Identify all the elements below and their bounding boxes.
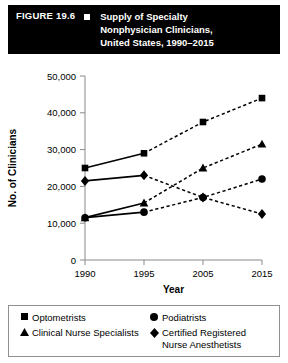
x-axis-tick-label: 2005 <box>192 268 213 279</box>
data-series-layer <box>81 95 267 222</box>
circle-marker-icon <box>149 313 159 321</box>
x-axis-tick-group: 1990199520052015 <box>74 260 272 279</box>
y-axis-tick-label: 40,000 <box>47 107 76 118</box>
legend-label: Certified Registered <box>162 327 246 338</box>
y-axis-title: No. of Clinicians <box>7 128 18 207</box>
square-data-point <box>141 150 148 157</box>
diamond-data-point <box>81 176 89 186</box>
y-axis-tick-group: 010,00020,00030,00040,00050,000 <box>47 71 85 266</box>
figure-number-label: FIGURE 19.6 <box>16 10 75 23</box>
x-axis-tick-label: 1990 <box>74 268 95 279</box>
circle-data-point <box>258 175 266 183</box>
legend-item-clinical-nurse-specialists: Clinical Nurse Specialists <box>19 327 145 339</box>
x-axis-title: Year <box>163 284 184 295</box>
white-square-bullet-icon <box>84 14 90 20</box>
x-axis-tick-label: 1995 <box>133 268 154 279</box>
y-axis-tick-label: 10,000 <box>47 218 76 229</box>
legend-item-podiatrists: Podiatrists <box>149 312 275 324</box>
figure-title-line-3: United States, 1990–2015 <box>100 36 274 49</box>
square-marker-icon <box>19 313 29 320</box>
figure-title-line-1: Supply of Specialty <box>100 10 274 23</box>
legend-label: Clinical Nurse Specialists <box>32 327 145 339</box>
legend-item-certified-registered-nurse-anesthetists: Certified Registered Nurse Anesthetists <box>149 327 275 351</box>
figure-title: Supply of Specialty Nonphysician Clinici… <box>100 10 274 49</box>
series-podiatrists <box>81 175 266 221</box>
figure-header: FIGURE 19.6 Supply of Specialty Nonphysi… <box>8 5 280 54</box>
legend-label: Optometrists <box>32 312 145 324</box>
triangle-data-point <box>258 140 267 148</box>
triangle-marker-icon <box>19 328 29 336</box>
square-data-point <box>259 95 266 102</box>
square-data-point <box>82 165 89 172</box>
series-optometrists <box>82 95 266 172</box>
chart-legend: Optometrists Clinical Nurse Specialists … <box>8 305 280 357</box>
y-axis-tick-label: 30,000 <box>47 144 76 155</box>
legend-label-line-2: Nurse Anesthetists <box>162 339 275 351</box>
line-chart-svg: 010,00020,00030,00040,00050,000 19901995… <box>0 58 288 298</box>
diamond-data-point <box>199 192 207 202</box>
figure-title-line-2: Nonphysician Clinicians, <box>100 23 274 36</box>
diamond-marker-icon <box>149 328 159 338</box>
diamond-data-point <box>140 170 148 180</box>
legend-label: Podiatrists <box>162 312 275 324</box>
y-axis-tick-label: 0 <box>71 255 76 266</box>
square-data-point <box>200 119 207 126</box>
triangle-data-point <box>140 199 149 207</box>
diamond-data-point <box>258 209 266 219</box>
y-axis-tick-label: 50,000 <box>47 71 76 82</box>
x-axis-tick-label: 2015 <box>251 268 272 279</box>
legend-item-optometrists: Optometrists <box>19 312 145 324</box>
chart-plot-area: 010,00020,00030,00040,00050,000 19901995… <box>0 58 288 298</box>
circle-data-point <box>140 208 148 216</box>
y-axis-tick-label: 20,000 <box>47 181 76 192</box>
series-clinical-nurse-specialists <box>81 140 267 222</box>
